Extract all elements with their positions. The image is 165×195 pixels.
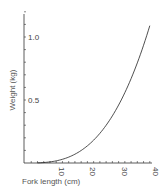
y-tick-label: 0.5: [28, 96, 40, 105]
x-tick-label: 10: [57, 167, 66, 176]
weight-curve: [37, 26, 149, 163]
y-tick-label: 1.0: [28, 33, 40, 42]
x-axis-title: Fork length (cm): [22, 177, 81, 186]
x-tick-label: 30: [120, 167, 129, 176]
x-tick-label: 40: [151, 167, 160, 176]
length-weight-chart: 0.51.0 10203040 Weight (kg) Fork length …: [0, 0, 165, 195]
y-axis-title: Weight (kg): [8, 69, 17, 110]
y-axis-ticks: 0.51.0: [24, 12, 40, 151]
x-tick-label: 20: [88, 167, 97, 176]
